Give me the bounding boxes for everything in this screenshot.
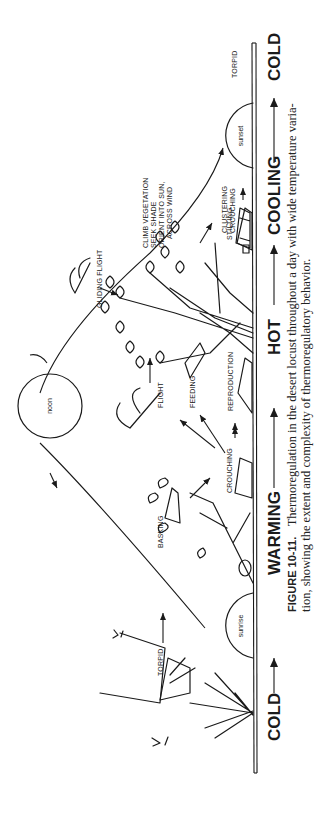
figure-10-11: sunrise noon sunset TORPID B xyxy=(0,0,327,833)
behavior-climb-line1: CLIMB VEGETATION xyxy=(142,177,149,248)
crouching-locust-illustration: CROUCHING xyxy=(226,423,252,498)
behavior-basking: BASKING xyxy=(157,515,164,548)
sunrise-label: sunrise xyxy=(237,615,244,638)
behavior-reproduction: REPRODUCTION xyxy=(227,352,234,411)
behavior-clustering: CLUSTERING xyxy=(221,186,228,233)
behavior-climb-line2: SEEK SHADE xyxy=(150,201,157,248)
temperature-phase-bar: COLD WARMING HOT COOLING COLD xyxy=(265,33,284,741)
svg-text:FIGURE 10-11. Thermore: FIGURE 10-11. Thermoregulation in the de… xyxy=(282,103,299,612)
phase-cold-end: COLD xyxy=(265,33,284,81)
climb-vegetation-note: CLIMB VEGETATION SEEK SHADE ORIENT INTO … xyxy=(142,177,212,248)
phase-cold-start: COLD xyxy=(265,693,284,741)
phase-cooling: COOLING xyxy=(265,156,284,235)
behavior-climb-line4: ACROSS WIND xyxy=(166,187,173,239)
sun-noon: noon xyxy=(18,374,82,438)
caption-line1: Thermoregulation in the desert locust th… xyxy=(285,103,299,526)
ground-line xyxy=(252,43,257,773)
behavior-torpid-morning: TORPID xyxy=(157,648,164,676)
behavior-flight: FLIGHT xyxy=(157,381,164,408)
noon-label: noon xyxy=(46,398,53,414)
behavior-torpid-evening: TORPID xyxy=(231,50,238,78)
sunset-label: sunset xyxy=(237,126,244,147)
behavior-feeding: FEEDING xyxy=(189,375,196,408)
behavior-crouching: CROUCHING xyxy=(226,448,233,493)
vegetation-tree-illustration xyxy=(101,221,253,368)
feeding-reproduction-illustration: FEEDING REPRODUCTION xyxy=(185,343,252,453)
behavior-climb-line3: ORIENT INTO SUN, xyxy=(158,181,165,248)
phase-hot: HOT xyxy=(265,319,284,356)
flight-locust-illustration: FLIGHT xyxy=(117,358,215,448)
gliding-flight-locust-illustration: GLIDING FLIGHT xyxy=(70,249,118,308)
behavior-crouching-evening: CROUCHING xyxy=(229,188,236,233)
behavior-gliding-flight: GLIDING FLIGHT xyxy=(96,249,103,308)
sun-sunrise: sunrise xyxy=(226,593,253,658)
torpid-locust-morning-illustration: TORPID xyxy=(100,630,253,746)
figure-caption: FIGURE 10-11. Thermoregulation in the de… xyxy=(282,103,313,612)
sun-sunset: sunset xyxy=(226,103,253,168)
caption-line2: tion, showing the extent and complexity … xyxy=(299,259,313,612)
caption-label: FIGURE 10-11. xyxy=(286,537,298,612)
